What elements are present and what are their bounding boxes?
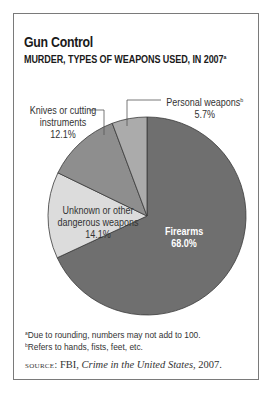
label-personal-weapons: Personal weaponsb 5.7% [166,94,243,121]
pie-chart [0,0,272,400]
footnote-b: bRefers to hands, fists, feet, etc. [25,341,143,352]
label-unknown: Unknown or other dangerous weapons 14.1% [58,205,139,241]
footnote-a: aDue to rounding, numbers may not add to… [25,329,201,340]
label-firearms: Firearms 68.0% [165,226,203,250]
source-note: source: FBI, Crime in the United States,… [25,359,222,370]
label-knives: Knives or cutting instruments 12.1% [30,105,97,141]
